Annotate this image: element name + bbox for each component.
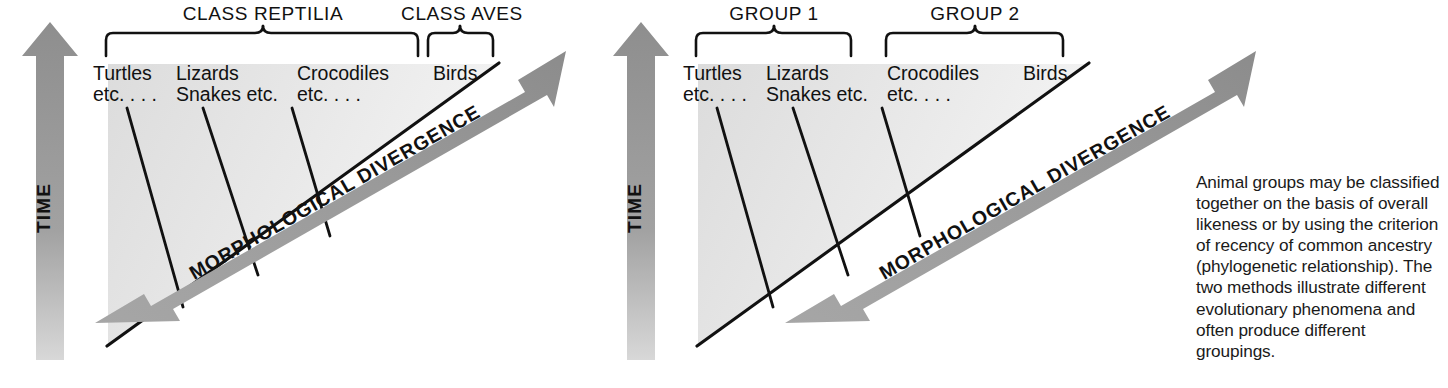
leaf-label-birds-left: Birds	[433, 62, 478, 84]
group-label-class-aves: CLASS AVES	[401, 3, 523, 24]
brace-class-reptilia	[106, 26, 418, 56]
time-axis-label-left: TIME	[33, 183, 54, 233]
group-label-class-reptilia: CLASS REPTILIA	[183, 3, 343, 24]
leaf-label-lizards-left-line2: Snakes etc.	[176, 83, 278, 105]
leaf-label-crocodiles-left-line2: etc. . . .	[297, 83, 361, 105]
panel-left: TIME MORPHOLOGICAL DIVERGENCE	[22, 3, 566, 360]
figure-stage: TIME MORPHOLOGICAL DIVERGENCE	[0, 0, 1448, 388]
panel-right: TIME MORPHOLOGICAL DIVERGENCE G	[613, 3, 1256, 360]
leaf-label-crocodiles-left-line1: Crocodiles	[297, 62, 389, 84]
group-label-group-1: GROUP 1	[729, 3, 818, 24]
time-axis-arrow-right: TIME	[613, 22, 669, 360]
figure-caption: Animal groups may be classified together…	[1196, 172, 1446, 362]
time-axis-label-right: TIME	[624, 183, 645, 233]
time-axis-arrow-left: TIME	[22, 22, 78, 360]
brace-group-2	[886, 26, 1063, 56]
leaf-label-crocodiles-right-line2: etc. . . .	[887, 83, 951, 105]
leaf-label-lizards-right-line1: Lizards	[766, 62, 829, 84]
brace-group-1	[696, 26, 851, 56]
leaf-label-turtles-right-line2: etc. . . .	[683, 83, 747, 105]
leaf-label-lizards-right-line2: Snakes etc.	[766, 83, 868, 105]
leaf-label-turtles-left-line1: Turtles	[93, 62, 152, 84]
leaf-label-turtles-right-line1: Turtles	[683, 62, 742, 84]
leaf-label-lizards-left-line1: Lizards	[176, 62, 239, 84]
leaf-label-turtles-left-line2: etc. . . .	[93, 83, 157, 105]
leaf-label-crocodiles-right-line1: Crocodiles	[887, 62, 979, 84]
leaf-label-birds-right: Birds	[1023, 62, 1068, 84]
group-label-group-2: GROUP 2	[930, 3, 1019, 24]
brace-class-aves	[428, 26, 493, 56]
